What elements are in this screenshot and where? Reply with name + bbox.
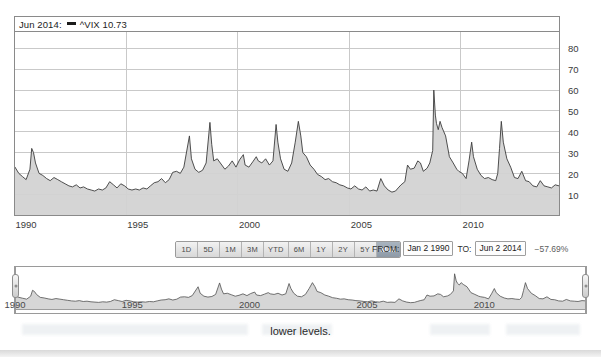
change-percent: −57.69% [535, 244, 569, 254]
x-axis-tick-label: 2005 [351, 219, 372, 230]
page-caption-row: lower levels. [0, 322, 601, 344]
range-button-group[interactable]: 1D5D1M3MYTD6M1Y2Y5YMax [175, 241, 401, 258]
main-chart-panel[interactable]: Jun 2014: ^VIX 10.73 [14, 16, 560, 216]
range-button-2y[interactable]: 2Y [333, 242, 355, 257]
x-axis-tick-label: 1995 [127, 219, 148, 230]
x-axis-tick-label: 2010 [463, 219, 484, 230]
caption-text: lower levels. [0, 325, 601, 337]
y-axis: 1020304050607080 [562, 16, 600, 216]
range-control-bar: 1D5D1M3MYTD6M1Y2Y5YMax FROM: Jan 2 1990 … [0, 241, 601, 258]
navigator-plot[interactable] [15, 267, 586, 313]
navigator-left-handle[interactable] [12, 274, 19, 298]
x-axis: 19901995200020052010 [0, 219, 601, 233]
series-color-swatch [67, 22, 76, 25]
legend-date: Jun 2014: [19, 19, 62, 30]
range-button-1d[interactable]: 1D [176, 242, 198, 257]
chart-legend: Jun 2014: ^VIX 10.73 [15, 17, 559, 32]
y-axis-tick-label: 80 [568, 42, 579, 53]
page-bottom-edge [0, 350, 601, 357]
x-axis-tick-label: 2000 [239, 219, 260, 230]
navigator-right-handle[interactable] [582, 274, 589, 298]
y-axis-tick-label: 10 [568, 190, 579, 201]
range-button-ytd[interactable]: YTD [264, 242, 289, 257]
range-button-3m[interactable]: 3M [242, 242, 264, 257]
range-button-5d[interactable]: 5D [198, 242, 220, 257]
y-axis-tick-label: 20 [568, 169, 579, 180]
main-chart-plot[interactable] [15, 17, 559, 215]
y-axis-tick-label: 60 [568, 84, 579, 95]
range-button-1m[interactable]: 1M [220, 242, 242, 257]
vix-chart-widget: Jun 2014: ^VIX 10.73 1020304050607080 19… [0, 0, 601, 357]
from-label: FROM: [372, 244, 399, 254]
legend-series-label: ^VIX 10.73 [80, 19, 127, 30]
navigator-panel[interactable]: 19901995200020052010 [14, 266, 587, 314]
y-axis-tick-label: 30 [568, 147, 579, 158]
date-range-fields: FROM: Jan 2 1990 TO: Jun 2 2014 −57.69% [372, 241, 568, 256]
y-axis-tick-label: 50 [568, 105, 579, 116]
y-axis-tick-label: 70 [568, 63, 579, 74]
x-axis-tick-label: 1990 [15, 219, 36, 230]
range-button-1y[interactable]: 1Y [311, 242, 333, 257]
y-axis-tick-label: 40 [568, 126, 579, 137]
from-date-input[interactable]: Jan 2 1990 [403, 241, 453, 256]
to-label: TO: [457, 244, 471, 254]
to-date-input[interactable]: Jun 2 2014 [475, 241, 525, 256]
range-button-6m[interactable]: 6M [289, 242, 311, 257]
